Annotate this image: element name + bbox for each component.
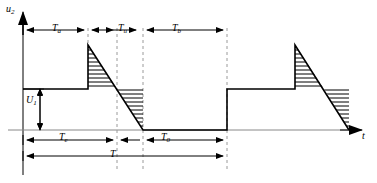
y-axis-label: u2 — [6, 4, 15, 14]
label-t-b: Tb — [172, 23, 181, 33]
label-t-0: T0 — [161, 132, 170, 142]
dimension-t-period — [23, 151, 223, 161]
hatch-region-lower-1 — [117, 86, 147, 134]
label-t-u: Tu — [118, 23, 127, 33]
x-axis-label: t — [362, 131, 365, 141]
guide-lines — [88, 28, 227, 172]
label-t-e: Te — [59, 132, 68, 142]
label-u-1: U1 — [26, 95, 37, 105]
hatch-region-upper-2 — [295, 40, 329, 94]
waveform-figure: u2 t Ta Tu Tb U1 Te T0 T — [0, 0, 377, 183]
hatch-region-lower-2 — [324, 86, 354, 134]
label-t-a: Ta — [52, 23, 61, 33]
label-t-period: T — [110, 149, 116, 159]
dimension-t-e — [23, 135, 113, 145]
